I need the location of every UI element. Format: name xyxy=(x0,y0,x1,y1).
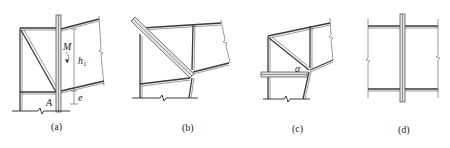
panel-c: α (c) xyxy=(261,18,333,135)
upper-beam xyxy=(61,19,99,29)
diagonal-brace xyxy=(21,30,56,92)
eccentricity-label: e xyxy=(78,92,83,103)
lower-beam xyxy=(310,60,333,70)
angle-label: α xyxy=(295,63,301,74)
diagonal-brace xyxy=(269,38,309,70)
moment-label: M xyxy=(62,41,72,52)
height-label: h1 xyxy=(78,55,87,68)
top-chord xyxy=(268,23,330,36)
lower-beam xyxy=(61,81,104,91)
panel-d: (d) xyxy=(366,14,440,136)
lower-beam xyxy=(193,63,229,72)
break-line xyxy=(329,18,333,60)
caption-c: (c) xyxy=(292,123,303,135)
caption-b: (b) xyxy=(182,122,194,134)
right-post xyxy=(192,25,193,70)
panel-a: M h1 A e (a) xyxy=(12,15,104,133)
caption-a: (a) xyxy=(51,121,62,133)
truss-connection-diagram: M h1 A e (a) (b) xyxy=(0,0,450,148)
break-line xyxy=(221,20,230,63)
caption-d: (d) xyxy=(398,124,410,136)
left-break-line xyxy=(366,19,370,98)
panel-b: (b) xyxy=(131,17,230,134)
break-line xyxy=(99,16,104,86)
right-break-line xyxy=(436,19,440,98)
point-a-label: A xyxy=(45,97,53,108)
